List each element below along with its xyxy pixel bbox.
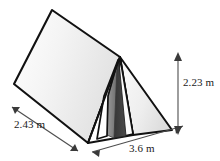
dimension-label-height: 2.23 m — [183, 76, 214, 88]
dimension-label-slant: 2.43 m — [14, 118, 45, 130]
dimension-arrow-height — [174, 52, 182, 135]
dimension-label-length: 3.6 m — [129, 142, 155, 154]
tent-diagram-page: 2.43 m 3.6 m 2.23 m — [0, 0, 220, 161]
